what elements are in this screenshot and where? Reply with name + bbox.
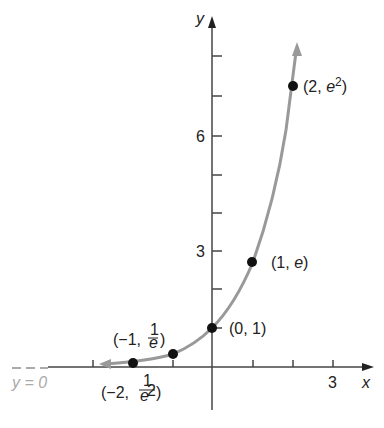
svg-text:): ) [160,331,165,348]
label-point-1: (1, e) [271,254,308,271]
label-point-0: (0, 1) [229,320,266,337]
exponential-graph: y x 3 3 6 y = 0 (2, e2) (1, e) (0, 1) (−… [0,0,384,428]
y-axis-label: y [195,10,205,27]
point-0 [207,323,217,333]
label-point-2: (2, e2) [303,75,347,95]
svg-text:2: 2 [147,382,156,399]
svg-text:(−1,: (−1, [113,331,141,348]
y-ticks [212,56,222,328]
y-axis-arrow-icon [208,16,216,28]
curve-top-arrow-icon [292,42,302,56]
y-tick-label-6: 6 [196,128,205,145]
svg-text:): ) [156,384,161,401]
svg-text:e: e [149,334,158,351]
exp-curve [104,52,296,364]
x-axis-arrow-icon [362,363,374,371]
y-tick-label-3: 3 [196,243,205,260]
label-point-neg2: (−2, 1 e 2 ) [101,372,161,404]
point-neg1 [168,349,178,359]
asymptote-label: y = 0 [11,374,47,391]
point-1 [247,257,257,267]
label-point-neg1: (−1, 1 e ) [113,321,165,351]
svg-text:(−2,: (−2, [101,384,129,401]
x-axis-label: x [361,374,371,391]
point-neg2 [128,358,138,368]
x-tick-label-3: 3 [328,374,337,391]
point-2 [288,81,298,91]
